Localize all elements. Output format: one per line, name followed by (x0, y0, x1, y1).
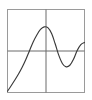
plot-svg (7, 9, 85, 93)
graph-thumbnail-page (0, 0, 92, 100)
plot-frame (7, 9, 85, 93)
